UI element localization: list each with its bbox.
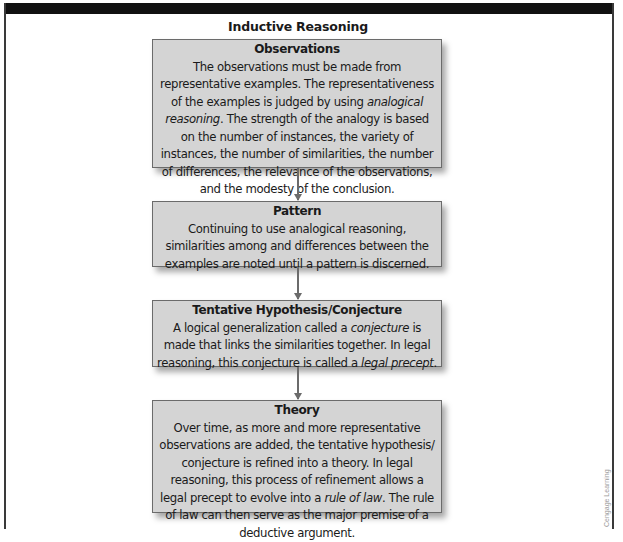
step-box-theory: Theory Over time, as more and more repre… [152,400,442,513]
diagram-title: Inductive Reasoning [0,19,596,34]
down-arrow-icon [297,367,299,399]
step-box-hypothesis: Tentative Hypothesis/Conjecture A logica… [152,300,442,367]
text-run: A logical generalization called a [173,321,351,335]
step-heading: Pattern [157,203,437,221]
italic-term: rule of law [324,491,381,505]
down-arrow-icon [297,267,299,299]
down-arrow-icon [297,168,299,200]
step-body: A logical generalization called a conjec… [157,320,437,373]
text-run: Continuing to use analogical reasoning, … [165,222,429,271]
italic-term: legal precept [361,356,433,370]
step-heading: Observations [157,41,437,59]
step-box-pattern: Pattern Continuing to use analogical rea… [152,201,442,267]
step-body: Continuing to use analogical reasoning, … [157,221,437,274]
publisher-watermark: Cengage Learning [603,469,610,527]
step-body: Over time, as more and more representati… [157,420,437,542]
step-heading: Theory [157,402,437,420]
step-box-observations: Observations The observations must be ma… [152,39,442,168]
step-heading: Tentative Hypothesis/Conjecture [157,302,437,320]
italic-term: conjecture [351,321,409,335]
text-run: . [434,356,437,370]
